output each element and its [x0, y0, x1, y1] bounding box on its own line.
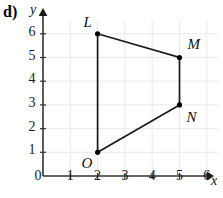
y-axis-label: y	[30, 2, 36, 18]
y-tick-label: 5	[25, 48, 39, 64]
y-tick-label: 3	[25, 95, 39, 111]
point-label-l: L	[84, 14, 92, 31]
data-point-o	[95, 150, 100, 155]
data-point-m	[177, 55, 182, 60]
x-tick-label: 4	[144, 168, 160, 184]
data-point-n	[177, 102, 182, 107]
y-tick-label: 6	[25, 24, 39, 40]
x-tick-label: 5	[172, 168, 188, 184]
origin-tick-label: 0	[31, 168, 45, 184]
part-label: d)	[3, 3, 17, 21]
y-tick-label: 1	[25, 142, 39, 158]
y-tick-label: 2	[25, 119, 39, 135]
point-label-n: N	[187, 109, 197, 126]
y-tick-label: 4	[25, 71, 39, 87]
x-tick-label: 6	[199, 168, 215, 184]
x-tick-label: 1	[62, 168, 78, 184]
point-label-o: O	[82, 155, 93, 172]
point-label-m: M	[188, 36, 201, 53]
data-point-l	[95, 31, 100, 36]
x-tick-label: 3	[117, 168, 133, 184]
